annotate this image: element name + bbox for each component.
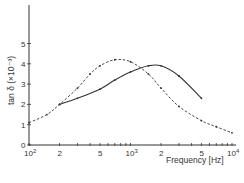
- y-tick-label: 3: [21, 80, 26, 89]
- y-tick-label: 1: [21, 121, 26, 130]
- x-tick-label: 102: [24, 148, 37, 158]
- data-point: [46, 114, 48, 116]
- data-point: [99, 65, 101, 67]
- series-group: [28, 59, 233, 134]
- data-point: [231, 132, 233, 134]
- data-point: [99, 88, 101, 90]
- chart: 1022510325104 012345 tan δ (×10⁻³) Frequ…: [0, 0, 244, 183]
- x-tick-label: 103: [126, 148, 139, 158]
- x-tick-label: 2: [58, 149, 63, 158]
- data-point: [130, 71, 132, 73]
- data-point: [201, 97, 203, 99]
- data-point: [28, 122, 30, 124]
- y-tick-label: 5: [21, 40, 26, 49]
- data-point: [77, 97, 79, 99]
- y-axis-label: tan δ (×10⁻³): [6, 56, 16, 105]
- y-tick-label: 2: [21, 100, 26, 109]
- dashed-series-line: [29, 59, 232, 132]
- data-point: [77, 87, 79, 89]
- data-point: [178, 75, 180, 77]
- data-point: [147, 73, 149, 75]
- data-point: [130, 61, 132, 63]
- data-point: [147, 65, 149, 67]
- data-point: [89, 73, 91, 75]
- data-point: [114, 79, 116, 81]
- x-tick-label: 2: [159, 149, 164, 158]
- data-point: [178, 106, 180, 108]
- data-point: [59, 104, 61, 106]
- y-tick-label: 4: [21, 60, 26, 69]
- data-point: [160, 65, 162, 67]
- x-tick-label: 5: [98, 149, 103, 158]
- data-point: [215, 126, 217, 128]
- x-axis-label: Frequency [Hz]: [166, 155, 224, 165]
- data-point: [201, 120, 203, 122]
- data-point: [114, 59, 116, 61]
- data-point: [160, 87, 162, 89]
- y-tick-label: 0: [21, 141, 26, 150]
- x-tick-label: 104: [227, 148, 240, 158]
